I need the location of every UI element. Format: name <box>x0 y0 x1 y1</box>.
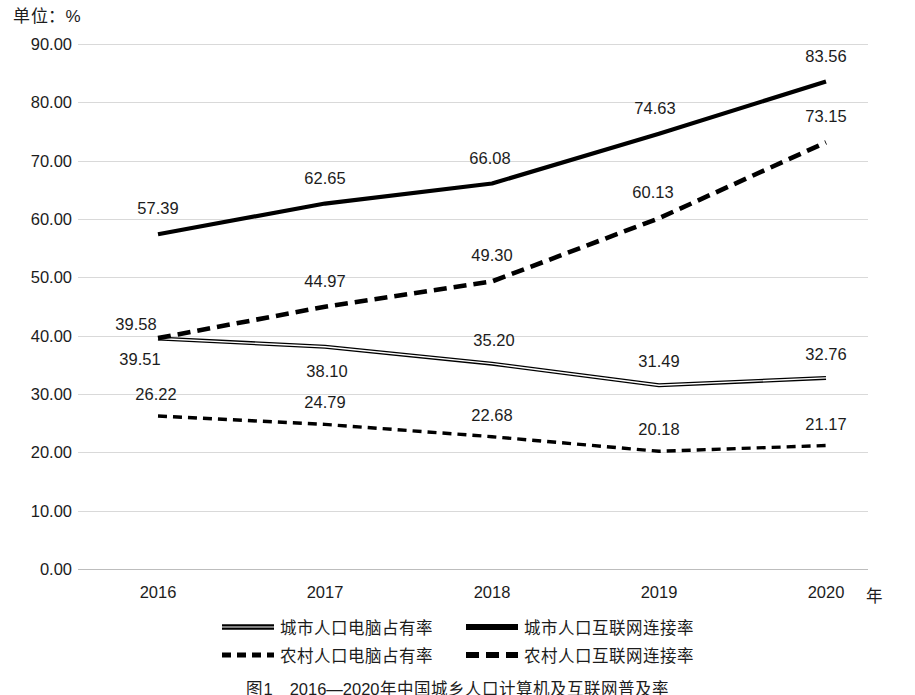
data-point-label: 44.97 <box>304 271 345 290</box>
gridline <box>78 219 868 220</box>
y-axis-tick-label: 30.00 <box>10 385 72 404</box>
x-axis-tick-label: 2020 <box>808 583 845 602</box>
legend-swatch-double-solid <box>221 620 275 634</box>
legend-item[interactable]: 城市人口电脑占有率 <box>221 615 433 639</box>
plot-area <box>78 44 868 569</box>
y-axis-tick-label: 40.00 <box>10 326 72 345</box>
x-axis-baseline <box>78 569 868 570</box>
data-point-label: 66.08 <box>469 148 510 167</box>
legend-swatch-thick-solid <box>465 620 519 634</box>
data-point-label: 49.30 <box>471 246 512 265</box>
data-point-label: 83.56 <box>805 46 846 65</box>
y-axis-tick-label: 20.00 <box>10 443 72 462</box>
gridline <box>78 511 868 512</box>
data-point-label: 26.22 <box>135 385 176 404</box>
data-point-label: 32.76 <box>805 344 846 363</box>
gridline <box>78 394 868 395</box>
legend-item-label: 城市人口互联网连接率 <box>524 615 694 639</box>
y-axis-tick-label: 80.00 <box>10 93 72 112</box>
legend-row-2: 农村人口电脑占有率农村人口互联网连接率 <box>0 642 915 668</box>
data-point-label: 22.68 <box>471 405 512 424</box>
data-point-label: 38.10 <box>306 361 347 380</box>
data-point-label: 57.39 <box>137 199 178 218</box>
legend-item[interactable]: 城市人口互联网连接率 <box>465 615 694 639</box>
data-point-label: 74.63 <box>634 98 675 117</box>
data-point-label: 21.17 <box>805 414 846 433</box>
y-axis-tick-labels: 90.0080.0070.0060.0050.0040.0030.0020.00… <box>6 44 72 569</box>
data-point-label: 62.65 <box>304 168 345 187</box>
x-axis-tick-label: 2016 <box>140 583 177 602</box>
legend-row-1: 城市人口电脑占有率城市人口互联网连接率 <box>0 614 915 640</box>
legend-swatch-thick-dashed <box>465 648 519 662</box>
data-point-label: 39.51 <box>119 349 160 368</box>
legend-item-label: 城市人口电脑占有率 <box>280 615 433 639</box>
gridline <box>78 102 868 103</box>
y-axis-unit-label: 单位：% <box>13 2 81 27</box>
legend-item-label: 农村人口互联网连接率 <box>524 643 694 667</box>
y-axis-tick-label: 10.00 <box>10 501 72 520</box>
data-point-label: 73.15 <box>805 107 846 126</box>
data-point-label: 39.58 <box>115 315 156 334</box>
gridline <box>78 452 868 453</box>
y-axis-tick-label: 50.00 <box>10 268 72 287</box>
gridline <box>78 44 868 45</box>
legend-item-label: 农村人口电脑占有率 <box>280 643 433 667</box>
x-axis-tick-label: 2019 <box>641 583 678 602</box>
gridline <box>78 277 868 278</box>
legend-swatch-thin-dashed <box>221 648 275 662</box>
data-point-label: 35.20 <box>473 330 514 349</box>
y-axis-tick-label: 0.00 <box>10 560 72 579</box>
legend: 城市人口电脑占有率城市人口互联网连接率 农村人口电脑占有率农村人口互联网连接率 <box>0 614 915 670</box>
x-axis-title: 年 <box>866 583 883 607</box>
line-chart: 单位：% 90.0080.0070.0060.0050.0040.0030.00… <box>0 0 915 695</box>
y-axis-tick-label: 90.00 <box>10 35 72 54</box>
data-point-label: 24.79 <box>304 393 345 412</box>
legend-item[interactable]: 农村人口电脑占有率 <box>221 643 433 667</box>
data-point-label: 60.13 <box>632 183 673 202</box>
legend-item[interactable]: 农村人口互联网连接率 <box>465 643 694 667</box>
data-point-label: 20.18 <box>638 420 679 439</box>
x-axis-tick-label: 2018 <box>474 583 511 602</box>
figure-caption: 图1 2016—2020年中国城乡人口计算机及互联网普及率 <box>0 676 915 695</box>
x-axis-tick-label: 2017 <box>307 583 344 602</box>
data-point-label: 31.49 <box>638 352 679 371</box>
x-axis-tick-labels: 年 20162017201820192020 <box>0 583 915 609</box>
y-axis-tick-label: 70.00 <box>10 151 72 170</box>
y-axis-tick-label: 60.00 <box>10 210 72 229</box>
